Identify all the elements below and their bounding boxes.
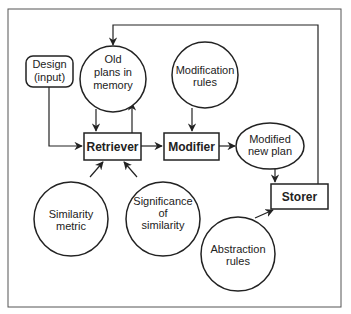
label-line: Significance <box>133 195 192 207</box>
edge-design-retriever <box>49 87 82 146</box>
label-line: rules <box>193 76 217 88</box>
node-modified-new-plan: Modified new plan <box>236 123 304 169</box>
label-line: of <box>158 207 168 219</box>
edge-simmetric-retriever <box>90 162 103 177</box>
node-retriever: Retriever <box>84 133 141 160</box>
node-significance-of-similarity: Significance of similarity <box>126 182 200 256</box>
label-line: Old <box>104 53 121 65</box>
node-abstraction-rules: Abstraction rules <box>201 217 275 291</box>
label: Retriever <box>86 140 138 154</box>
node-modification-rules: Modification rules <box>172 42 238 108</box>
edge-abstraction-storer <box>255 210 273 218</box>
label-line: new plan <box>248 145 292 157</box>
label-line: rules <box>226 255 250 267</box>
edge-significance-retriever <box>124 162 137 177</box>
label-line: metric <box>56 220 86 232</box>
label: Modifier <box>168 140 215 154</box>
node-similarity-metric: Similarity metric <box>34 182 108 256</box>
label-line: Abstraction <box>210 243 265 255</box>
label-line: Modification <box>176 64 235 76</box>
case-based-planning-diagram: Design (input) Old plans in memory Modif… <box>0 0 351 314</box>
label-line: (input) <box>34 71 65 83</box>
node-modifier: Modifier <box>164 133 219 160</box>
label-line: plans in <box>94 66 132 78</box>
label: Storer <box>282 190 318 204</box>
node-old-plans: Old plans in memory <box>80 46 146 112</box>
label-line: memory <box>93 79 133 91</box>
label-line: Modified <box>249 133 291 145</box>
label-line: Design <box>32 58 66 70</box>
label-line: Similarity <box>49 208 94 220</box>
label-line: similarity <box>142 219 185 231</box>
node-design-input: Design (input) <box>26 56 73 87</box>
node-storer: Storer <box>271 184 328 209</box>
